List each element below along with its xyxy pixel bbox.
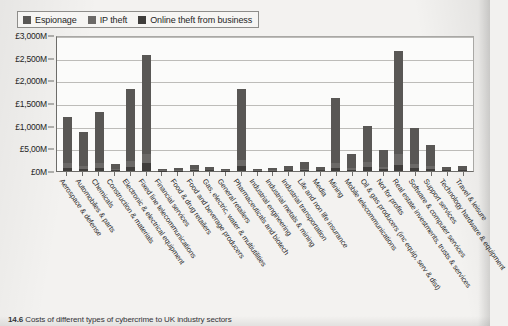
bar-segment <box>394 154 403 164</box>
stacked-bar[interactable] <box>458 166 467 171</box>
x-axis-tick <box>186 172 202 177</box>
bar-segment <box>426 145 435 167</box>
stacked-bar[interactable] <box>426 145 435 171</box>
stacked-bar[interactable] <box>237 89 246 172</box>
bar-segment <box>111 170 120 171</box>
bar-segment <box>347 154 356 168</box>
y-axis-tick-mark <box>48 58 54 59</box>
stacked-bar[interactable] <box>95 112 104 171</box>
legend-label-online-theft: Online theft from business <box>150 15 252 25</box>
bar-segment <box>63 117 72 163</box>
bar-segment <box>95 168 104 171</box>
y-axis-tick-label: £1,500M <box>15 99 47 109</box>
legend-item-online-theft: Online theft from business <box>138 15 252 25</box>
legend-swatch-espionage <box>23 16 31 24</box>
x-axis-tick <box>217 172 233 177</box>
bar-slot <box>233 37 249 171</box>
chart-legend: Espionage IP theft Online theft from bus… <box>17 11 259 28</box>
bar-segment <box>410 168 419 171</box>
plot-canvas <box>56 36 474 172</box>
stacked-bar[interactable] <box>347 154 356 171</box>
bar-segment <box>426 169 435 171</box>
bar-segment <box>379 150 388 167</box>
chart-plot-area: £3,000M£2,500M£2,000M£1,500M£1,000M£5,00… <box>0 36 490 186</box>
stacked-bar[interactable] <box>331 98 340 171</box>
y-axis-tick-label: £3,000M <box>15 31 47 41</box>
stacked-bar[interactable] <box>363 126 372 171</box>
y-axis-tick-mark <box>48 149 54 150</box>
bar-slot <box>328 37 344 171</box>
stacked-bar[interactable] <box>174 168 183 171</box>
bar-slot <box>454 37 470 171</box>
stacked-bar[interactable] <box>205 167 214 171</box>
y-axis-tick-label: £2,500M <box>15 54 47 64</box>
bar-segment <box>331 98 340 163</box>
stacked-bar[interactable] <box>379 150 388 171</box>
bar-slot <box>344 37 360 171</box>
stacked-bar[interactable] <box>316 167 325 171</box>
bar-segment <box>363 167 372 171</box>
bar-slot <box>155 37 171 171</box>
stacked-bar[interactable] <box>284 166 293 171</box>
x-axis-tick <box>455 172 471 177</box>
bar-segment <box>379 169 388 171</box>
stacked-bar[interactable] <box>111 164 120 171</box>
stacked-bar[interactable] <box>253 169 262 171</box>
legend-label-ip-theft: IP theft <box>100 15 128 25</box>
y-axis-tick-mark <box>48 172 54 173</box>
stacked-bar[interactable] <box>158 169 167 171</box>
y-axis-tick-mark <box>48 36 54 37</box>
bar-segment <box>300 170 309 171</box>
x-axis-tick <box>281 172 297 177</box>
bar-segment <box>95 112 104 163</box>
x-axis-tick <box>376 172 392 177</box>
bar-group <box>57 37 473 171</box>
x-axis-tick <box>344 172 360 177</box>
stacked-bar[interactable] <box>126 89 135 171</box>
x-axis-tick <box>249 172 265 177</box>
x-axis-tick <box>154 172 170 177</box>
stacked-bar[interactable] <box>410 128 419 171</box>
bar-segment <box>284 170 293 171</box>
scan-edge-shadow <box>478 0 490 326</box>
y-axis: £3,000M£2,500M£2,000M£1,500M£1,000M£5,00… <box>0 36 56 172</box>
bar-segment <box>394 51 403 154</box>
stacked-bar[interactable] <box>63 117 72 171</box>
stacked-bar[interactable] <box>268 168 277 171</box>
x-axis-tick <box>202 172 218 177</box>
legend-item-ip-theft: IP theft <box>88 15 128 25</box>
stacked-bar[interactable] <box>394 51 403 171</box>
stacked-bar[interactable] <box>442 167 451 171</box>
bar-segment <box>237 89 246 161</box>
bar-slot <box>360 37 376 171</box>
bar-segment <box>442 170 451 171</box>
bar-segment <box>142 163 151 171</box>
bar-segment <box>331 168 340 171</box>
y-axis-tick-mark <box>48 126 54 127</box>
stacked-bar[interactable] <box>190 165 199 171</box>
bar-slot <box>170 37 186 171</box>
bar-segment <box>410 128 419 164</box>
bar-slot <box>296 37 312 171</box>
bar-slot <box>438 37 454 171</box>
bar-segment <box>190 170 199 171</box>
stacked-bar[interactable] <box>300 162 309 171</box>
bar-segment <box>458 170 467 171</box>
bar-segment <box>126 167 135 171</box>
bar-slot <box>92 37 108 171</box>
bar-segment <box>316 170 325 171</box>
bar-slot <box>391 37 407 171</box>
stacked-bar[interactable] <box>79 132 88 171</box>
stacked-bar[interactable] <box>142 55 151 171</box>
bar-segment <box>300 162 309 169</box>
bar-segment <box>394 165 403 171</box>
stacked-bar[interactable] <box>221 169 230 171</box>
bar-slot <box>249 37 265 171</box>
x-axis-tick <box>265 172 281 177</box>
legend-swatch-online-theft <box>138 16 146 24</box>
legend-label-espionage: Espionage <box>35 15 77 25</box>
x-axis-tick <box>423 172 439 177</box>
scan-bottom-shadow <box>0 316 490 326</box>
bar-slot <box>202 37 218 171</box>
legend-swatch-ip-theft <box>88 16 96 24</box>
